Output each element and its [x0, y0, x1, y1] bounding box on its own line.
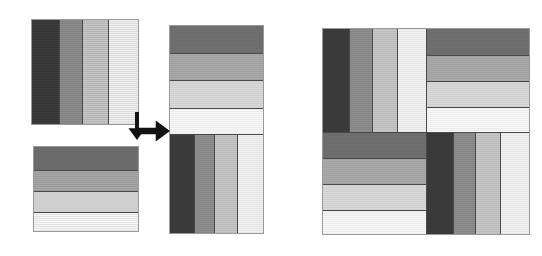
pinwheel-bottom-left-quadrant-band-4: [323, 210, 426, 234]
pinwheel-top-left-quadrant: [323, 29, 426, 132]
pinwheel-top-left-quadrant-band-1: [323, 29, 349, 132]
pinwheel-bottom-right-quadrant-band-3: [475, 133, 500, 235]
pinwheel-top-left-quadrant-band-2: [349, 29, 372, 132]
pinwheel-top-right-quadrant-band-3: [427, 81, 529, 107]
diagram-canvas: [0, 0, 542, 256]
pinwheel-square-block: [322, 28, 530, 235]
pinwheel-bottom-left-quadrant-band-2: [323, 158, 426, 183]
pinwheel-top-right-quadrant-band-2: [427, 55, 529, 81]
combined-rectangle-block: [169, 25, 264, 234]
source-vertical-band-4: [108, 20, 138, 124]
source-vertical-band-3: [82, 20, 108, 124]
pinwheel-top-right-quadrant-band-1: [427, 29, 529, 55]
source-vertical-block: [31, 19, 139, 125]
source-vertical-band-2: [59, 20, 82, 124]
pinwheel-bottom-left-quadrant: [323, 132, 426, 235]
source-horizontal-band-1: [34, 147, 138, 170]
combined-bottom-half-vertical-band-3: [214, 135, 237, 233]
combined-top-half-horizontal-band-1: [170, 26, 263, 53]
combined-bottom-half-vertical: [170, 134, 263, 233]
pinwheel-top-right-quadrant-band-4: [427, 107, 529, 132]
combined-top-half-horizontal-band-4: [170, 108, 263, 134]
right-arrow-icon: [136, 120, 170, 142]
combined-top-half-horizontal-band-3: [170, 80, 263, 107]
combined-top-half-horizontal-band-2: [170, 53, 263, 80]
source-horizontal-band-4: [34, 212, 138, 231]
source-horizontal-band-2: [34, 170, 138, 191]
pinwheel-bottom-left-quadrant-band-1: [323, 133, 426, 159]
pinwheel-bottom-right-quadrant-band-2: [453, 133, 475, 235]
pinwheel-top-left-quadrant-band-3: [372, 29, 397, 132]
combined-bottom-half-vertical-band-1: [170, 135, 194, 233]
combined-bottom-half-vertical-band-2: [194, 135, 214, 233]
source-horizontal-block: [33, 146, 139, 232]
source-vertical-band-1: [32, 20, 59, 124]
pinwheel-bottom-right-quadrant-band-1: [427, 133, 453, 235]
pinwheel-bottom-right-quadrant: [426, 132, 529, 235]
pinwheel-top-left-quadrant-band-4: [397, 29, 426, 132]
pinwheel-bottom-right-quadrant-band-4: [500, 133, 529, 235]
combined-top-half-horizontal: [170, 26, 263, 134]
pinwheel-bottom-left-quadrant-band-3: [323, 184, 426, 210]
pinwheel-top-right-quadrant: [426, 29, 529, 132]
source-horizontal-band-3: [34, 191, 138, 212]
combined-bottom-half-vertical-band-4: [237, 135, 263, 233]
